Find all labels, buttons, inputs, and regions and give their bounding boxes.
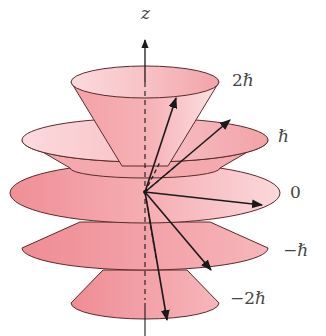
level-label-m-1: ℏ [278,126,289,146]
level-label-m-2: 2ℏ [232,70,254,90]
level-label-m-0: 0 [290,182,301,202]
level-label-m-minus-1: −ℏ [283,240,308,260]
level-label-m-minus-2: −2ℏ [230,288,266,308]
z-axis-label: z [140,3,151,23]
angular-momentum-cones-diagram: z 2ℏ ℏ 0 −ℏ −2ℏ [0,0,326,336]
